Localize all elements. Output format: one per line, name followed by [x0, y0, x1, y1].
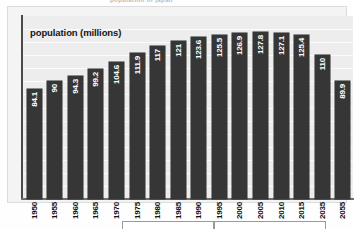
bar[interactable]: 110	[315, 55, 330, 199]
bar-slot: 90	[45, 16, 66, 199]
bar-slot: 125.4	[291, 16, 312, 199]
bar-value-label: 126.9	[235, 36, 244, 55]
bar-slot: 121	[168, 16, 189, 199]
bar[interactable]: 104.6	[109, 62, 124, 199]
x-tick-label: 2010	[277, 202, 286, 219]
x-tick-label: 1950	[30, 202, 39, 219]
bar-slot: 111.9	[127, 16, 148, 199]
bar-value-label: 111.9	[133, 56, 142, 74]
bar[interactable]: 125.4	[294, 35, 309, 199]
page-root: population of japan population (millions…	[0, 0, 354, 229]
x-tick-label: 2005	[256, 202, 265, 219]
bar-slot: 110	[312, 16, 333, 199]
bottom-table-boxes	[0, 221, 354, 229]
bar[interactable]: 126.9	[232, 33, 247, 199]
bar-slot: 94.3	[65, 16, 86, 199]
bar-slot: 125.5	[209, 16, 230, 199]
bar-value-label: 123.6	[194, 40, 203, 59]
x-tick-label: 2015	[297, 202, 306, 219]
x-tick-label: 2000	[235, 202, 244, 219]
bar[interactable]: 84.1	[27, 89, 42, 199]
table-box-left	[122, 221, 214, 229]
bar[interactable]: 127.8	[253, 32, 268, 199]
document-title: population of japan	[110, 0, 240, 3]
chart-frame: population (millions) 84.19094.399.2104.…	[7, 6, 347, 203]
x-tick-label: 1980	[153, 202, 162, 219]
bar-slot: 84.1	[24, 16, 45, 199]
x-tick-label: 1960	[71, 202, 80, 219]
bar-value-label: 110	[318, 58, 327, 70]
bar-slot: 104.6	[106, 16, 127, 199]
bar-value-label: 99.2	[91, 72, 100, 87]
x-tick-label: 1970	[112, 202, 121, 219]
bar-slot: 117	[147, 16, 168, 199]
x-tick-label: 1985	[174, 202, 183, 219]
bar-slot: 127.1	[271, 16, 292, 199]
bar-slot: 123.6	[189, 16, 210, 199]
x-tick-label: 1995	[215, 202, 224, 219]
bar-value-label: 90	[50, 84, 59, 93]
bar[interactable]: 125.5	[212, 35, 227, 199]
bar-slot: 127.8	[250, 16, 271, 199]
bar[interactable]: 111.9	[130, 53, 145, 199]
bar[interactable]: 90	[47, 81, 62, 199]
bar-value-label: 127.8	[256, 35, 265, 54]
bar-value-label: 94.3	[71, 79, 80, 94]
bar-value-label: 89.9	[338, 84, 347, 99]
x-tick-label: 1975	[133, 202, 142, 219]
bar[interactable]: 117	[150, 46, 165, 199]
x-tick-label: 1965	[91, 202, 100, 219]
bar[interactable]: 123.6	[191, 37, 206, 199]
x-tick-label: 2055	[338, 202, 347, 219]
bar-value-label: 125.4	[297, 38, 306, 57]
bar[interactable]: 94.3	[68, 76, 83, 199]
bar[interactable]: 89.9	[335, 81, 350, 199]
bar-value-label: 104.6	[112, 65, 121, 84]
bar[interactable]: 127.1	[274, 33, 289, 199]
x-tick-label: 1955	[50, 202, 59, 219]
bar-value-label: 117	[153, 49, 162, 61]
bar-value-label: 127.1	[277, 36, 286, 55]
x-tick-label: 1990	[194, 202, 203, 219]
bar-slot: 126.9	[230, 16, 251, 199]
bar-value-label: 121	[174, 44, 183, 57]
y-axis-line	[21, 15, 23, 200]
bar-value-label: 125.5	[215, 38, 224, 57]
x-tick-label: 2035	[318, 202, 327, 219]
bar-value-label: 84.1	[30, 92, 39, 107]
table-box-right	[214, 221, 326, 229]
bar-slot: 89.9	[332, 16, 353, 199]
bar[interactable]: 121	[171, 41, 186, 199]
bar-series: 84.19094.399.2104.6111.9117121123.6125.5…	[24, 16, 353, 199]
bar-slot: 99.2	[86, 16, 107, 199]
bar[interactable]: 99.2	[88, 69, 103, 199]
